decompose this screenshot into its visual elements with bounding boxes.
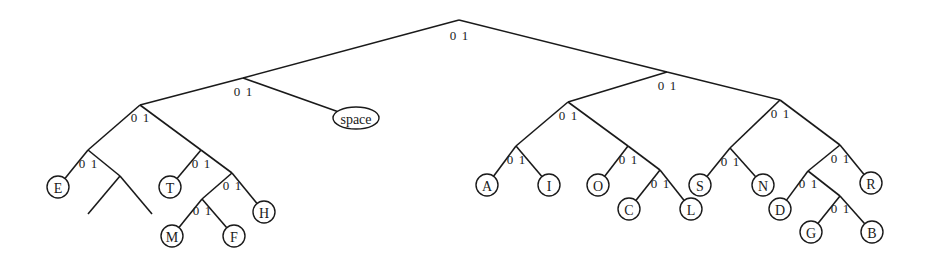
leaf-node-c: C: [618, 198, 640, 220]
tree-edge: [243, 20, 459, 78]
bit-label-zero: 0: [507, 152, 514, 167]
bit-label-one: 1: [843, 151, 850, 166]
tree-edge: [140, 78, 243, 105]
leaf-node-b: B: [861, 221, 883, 243]
leaf-label: O: [593, 179, 603, 194]
leaf-node-n: N: [752, 174, 774, 196]
leaf-label: S: [696, 179, 704, 194]
bit-label-one: 1: [462, 28, 469, 43]
bit-label-one: 1: [519, 152, 526, 167]
leaf-label: A: [482, 179, 493, 194]
bit-label-zero: 0: [79, 156, 86, 171]
leaf-node-o: O: [587, 174, 609, 196]
bit-label-one: 1: [631, 152, 638, 167]
bit-label-zero: 0: [619, 152, 626, 167]
leaf-label: G: [806, 226, 816, 241]
bit-label-zero: 0: [234, 84, 241, 99]
bit-label-one: 1: [204, 156, 211, 171]
leaf-label: D: [775, 203, 785, 218]
leaf-label: R: [866, 177, 876, 192]
tree-edges: [65, 20, 865, 228]
bit-label-zero: 0: [658, 78, 665, 93]
bit-label-zero: 0: [831, 201, 838, 216]
bit-label-zero: 0: [651, 176, 658, 191]
leaf-node-s: S: [689, 174, 711, 196]
leaf-label: I: [547, 179, 552, 194]
dangling-edge: [120, 176, 152, 214]
leaf-node-h: H: [253, 201, 275, 223]
leaf-node-f: F: [223, 225, 245, 247]
leaf-label: M: [166, 230, 179, 245]
dangling-edge: [88, 176, 120, 214]
bit-label-one: 1: [663, 176, 670, 191]
bit-label-zero: 0: [192, 156, 199, 171]
tree-edge: [459, 20, 667, 72]
bit-label-zero: 0: [559, 108, 566, 123]
bit-label-one: 1: [783, 106, 790, 121]
leaf-node-g: G: [800, 221, 822, 243]
leaf-label: B: [867, 226, 876, 241]
bit-labels: 0101010101010101010101010101010101: [79, 28, 850, 218]
bit-label-one: 1: [246, 84, 253, 99]
bit-label-zero: 0: [131, 110, 138, 125]
bit-label-zero: 0: [771, 106, 778, 121]
bit-label-zero: 0: [450, 28, 457, 43]
leaf-node-l: L: [680, 198, 702, 220]
bit-label-one: 1: [205, 203, 212, 218]
leaf-label: F: [230, 230, 238, 245]
bit-label-one: 1: [811, 176, 818, 191]
bit-label-zero: 0: [831, 151, 838, 166]
leaf-node-d: D: [769, 198, 791, 220]
leaf-label: T: [166, 181, 175, 196]
leaf-node-a: A: [476, 174, 498, 196]
leaf-node-t: T: [159, 176, 181, 198]
leaf-label: space: [340, 112, 371, 127]
leaf-node-i: I: [538, 174, 560, 196]
leaf-node-r: R: [860, 172, 882, 194]
huffman-tree-diagram: 0101010101010101010101010101010101 space…: [0, 0, 927, 260]
leaf-node-e: E: [47, 176, 69, 198]
tree-edge: [667, 72, 780, 100]
bit-label-one: 1: [733, 154, 740, 169]
bit-label-one: 1: [143, 110, 150, 125]
leaf-label: N: [758, 179, 768, 194]
leaf-label: H: [259, 206, 269, 221]
bit-label-zero: 0: [799, 176, 806, 191]
leaf-label: L: [687, 203, 696, 218]
bit-label-one: 1: [571, 108, 578, 123]
bit-label-one: 1: [670, 78, 677, 93]
leaf-label: C: [624, 203, 633, 218]
bit-label-one: 1: [235, 178, 242, 193]
leaf-node-m: M: [161, 225, 183, 247]
bit-label-one: 1: [91, 156, 98, 171]
bit-label-zero: 0: [721, 154, 728, 169]
bit-label-zero: 0: [193, 203, 200, 218]
bit-label-zero: 0: [223, 178, 230, 193]
leaf-node-space: space: [333, 107, 379, 129]
bit-label-one: 1: [843, 201, 850, 216]
tree-edge: [568, 72, 667, 102]
tree-edge: [243, 78, 338, 111]
leaf-label: E: [54, 181, 63, 196]
